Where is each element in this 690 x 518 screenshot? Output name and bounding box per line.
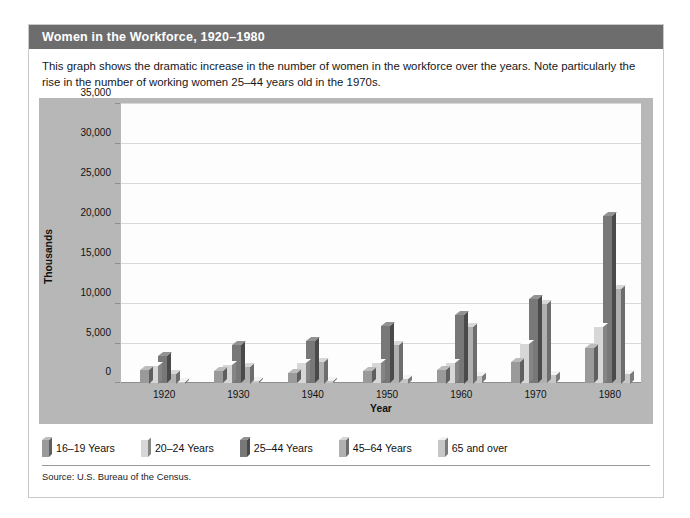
bar bbox=[363, 371, 372, 383]
bar bbox=[140, 370, 149, 384]
legend-swatch-side bbox=[49, 437, 52, 457]
bar-side bbox=[603, 323, 607, 384]
legend-swatch-face bbox=[42, 440, 49, 457]
bar-side bbox=[473, 323, 477, 384]
y-axis-tick-labels: 05,00010,00015,00020,00025,00030,00035,0… bbox=[39, 104, 115, 383]
legend-item[interactable]: 25–44 Years bbox=[240, 440, 313, 457]
plot-area bbox=[121, 104, 641, 383]
y-tick-label: 35,000 bbox=[80, 87, 111, 98]
legend-swatch-face bbox=[438, 440, 445, 457]
bar-group bbox=[288, 104, 333, 383]
legend-label: 16–19 Years bbox=[56, 442, 115, 454]
x-tick-label: 1980 bbox=[599, 389, 621, 400]
legend-swatch-side bbox=[247, 437, 250, 457]
bar bbox=[288, 373, 297, 383]
bar-side bbox=[390, 322, 394, 383]
bar-side bbox=[612, 212, 616, 383]
bar-face bbox=[363, 371, 372, 383]
y-tick-mark bbox=[115, 382, 120, 383]
y-tick-mark bbox=[115, 303, 120, 304]
legend-item[interactable]: 65 and over bbox=[438, 440, 508, 457]
bar bbox=[585, 348, 594, 383]
figure-caption: This graph shows the dramatic increase i… bbox=[29, 49, 663, 98]
legend-swatch-face bbox=[339, 440, 346, 457]
bar-side bbox=[241, 341, 245, 383]
legend-swatch-side bbox=[346, 437, 349, 457]
y-tick-mark bbox=[115, 343, 120, 344]
bar-face bbox=[288, 373, 297, 383]
bar-group bbox=[437, 104, 482, 383]
bar bbox=[511, 362, 520, 384]
legend-swatch-face bbox=[240, 440, 247, 457]
legend-label: 45–64 Years bbox=[353, 442, 412, 454]
x-axis-title: Year bbox=[121, 403, 641, 414]
bar-side bbox=[167, 352, 171, 383]
chart-legend: 16–19 Years20–24 Years25–44 Years45–64 Y… bbox=[29, 433, 663, 463]
y-tick-mark bbox=[115, 103, 120, 104]
bar-side bbox=[381, 359, 385, 383]
bar-side bbox=[464, 311, 468, 384]
y-tick-mark bbox=[115, 143, 120, 144]
bar-face bbox=[511, 362, 520, 384]
bar-side bbox=[324, 358, 328, 384]
y-tick-label: 10,000 bbox=[80, 287, 111, 298]
legend-swatch-face bbox=[141, 440, 148, 457]
bar-group bbox=[585, 104, 630, 383]
y-tick-label: 5,000 bbox=[86, 327, 111, 338]
x-tick-label: 1930 bbox=[227, 389, 249, 400]
source-note: Source: U.S. Bureau of the Census. bbox=[29, 466, 663, 482]
bar bbox=[437, 370, 446, 384]
legend-item[interactable]: 45–64 Years bbox=[339, 440, 412, 457]
bar-side bbox=[621, 285, 625, 384]
legend-item[interactable]: 16–19 Years bbox=[42, 440, 115, 457]
y-tick-label: 15,000 bbox=[80, 247, 111, 258]
figure-title-bar: Women in the Workforce, 1920–1980 bbox=[29, 25, 663, 49]
legend-swatch-side bbox=[148, 437, 151, 457]
legend-label: 65 and over bbox=[452, 442, 508, 454]
y-tick-label: 25,000 bbox=[80, 167, 111, 178]
bar-side bbox=[538, 295, 542, 383]
chart-panel: Thousands 05,00010,00015,00020,00025,000… bbox=[39, 98, 653, 424]
bar-face bbox=[585, 348, 594, 383]
legend-label: 25–44 Years bbox=[254, 442, 313, 454]
legend-swatch bbox=[240, 440, 247, 457]
bar-side bbox=[520, 358, 524, 384]
legend-swatch bbox=[141, 440, 148, 457]
legend-swatch bbox=[339, 440, 346, 457]
bar-side bbox=[529, 340, 533, 383]
bar bbox=[214, 371, 223, 383]
bar-group bbox=[214, 104, 259, 383]
bar-face bbox=[140, 370, 149, 384]
page-title: Women in the Workforce, 1920–1980 bbox=[42, 30, 265, 44]
y-tick-mark bbox=[115, 223, 120, 224]
x-tick-label: 1940 bbox=[302, 389, 324, 400]
bar-group bbox=[511, 104, 556, 383]
y-tick-mark bbox=[115, 263, 120, 264]
figure-container: Women in the Workforce, 1920–1980 This g… bbox=[28, 24, 664, 498]
x-tick-label: 1970 bbox=[524, 389, 546, 400]
bar-side bbox=[547, 300, 551, 383]
bar-side bbox=[594, 344, 598, 383]
y-tick-label: 0 bbox=[105, 366, 111, 377]
bar-face bbox=[214, 371, 223, 383]
y-tick-label: 20,000 bbox=[80, 207, 111, 218]
x-tick-label: 1950 bbox=[376, 389, 398, 400]
y-tick-label: 30,000 bbox=[80, 127, 111, 138]
x-tick-label: 1960 bbox=[450, 389, 472, 400]
y-tick-mark bbox=[115, 183, 120, 184]
legend-item[interactable]: 20–24 Years bbox=[141, 440, 214, 457]
legend-label: 20–24 Years bbox=[155, 442, 214, 454]
bar-face bbox=[437, 370, 446, 384]
bar-side bbox=[315, 337, 319, 383]
legend-swatch bbox=[42, 440, 49, 457]
bar-side bbox=[399, 341, 403, 383]
page-root: Women in the Workforce, 1920–1980 This g… bbox=[0, 0, 690, 518]
bar-group bbox=[140, 104, 185, 383]
bar-group bbox=[363, 104, 408, 383]
legend-swatch bbox=[438, 440, 445, 457]
x-tick-label: 1920 bbox=[153, 389, 175, 400]
